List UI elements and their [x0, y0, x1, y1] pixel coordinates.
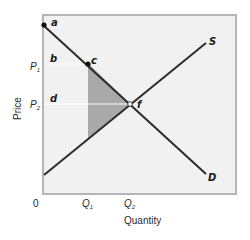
label-b: b [50, 53, 57, 64]
y-tick-p1: P1 [30, 61, 40, 73]
point-a-marker [41, 22, 46, 27]
y-axis-title: Price [12, 97, 23, 120]
demand-label: D [208, 172, 216, 183]
label-c: c [91, 55, 97, 66]
x-tick-q1: Q1 [82, 198, 93, 210]
x-axis-title: Quantity [124, 215, 161, 226]
label-d: d [50, 93, 58, 104]
origin-label: 0 [33, 198, 39, 209]
supply-label: S [209, 36, 216, 47]
label-a: a [51, 17, 58, 28]
y-tick-p2: P2 [30, 99, 41, 111]
point-c-marker [85, 61, 90, 66]
x-tick-q2: Q2 [124, 198, 136, 210]
supply-demand-diagram: a b c d f S D P1 P2 0 Q1 Q2 Quantity Pri… [0, 0, 250, 240]
point-f-marker [128, 102, 133, 107]
